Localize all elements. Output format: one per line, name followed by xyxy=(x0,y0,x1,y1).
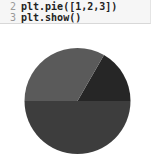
line-number: 3 xyxy=(0,12,21,23)
pie-chart xyxy=(0,28,157,159)
code-line: 2plt.pie([1,2,3]) xyxy=(0,1,150,12)
pie-slice-3 xyxy=(25,101,131,154)
code-cell[interactable]: 2plt.pie([1,2,3]) 3plt.show() xyxy=(0,0,151,24)
line-number: 2 xyxy=(0,1,21,12)
code-text: plt.pie([1,2,3]) xyxy=(21,1,117,12)
pie-chart-output xyxy=(0,28,157,159)
code-line: 3plt.show() xyxy=(0,12,150,23)
code-text: plt.show() xyxy=(21,12,81,23)
